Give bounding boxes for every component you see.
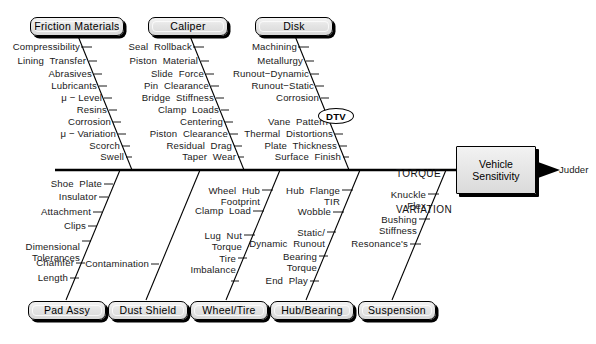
cause-pad-shoe-plate: Shoe Plate xyxy=(51,179,102,189)
cause-wheel-clamp-load: Clamp Load xyxy=(195,206,251,216)
cause-hub-flange-tir: Hub Flange TIR xyxy=(286,185,340,207)
category-label-suspension: Suspension xyxy=(368,305,426,316)
cause-disk-dtv-highlight: DTV xyxy=(318,108,354,124)
cause-friction-corrosion: Corrosion xyxy=(68,117,111,127)
cause-pad-insulator: Insulator xyxy=(59,192,97,202)
spine-annotation-line1: TORQUE xyxy=(396,168,452,180)
fishbone-diagram: Friction Materials Caliper Disk Pad Assy… xyxy=(0,0,596,344)
cause-caliper-seal-rollback: Seal Rollback xyxy=(129,42,192,52)
cause-caliper-piston-material: Piston Material xyxy=(129,56,198,66)
cause-caliper-bridge-stiffness: Bridge Stiffness xyxy=(142,93,214,103)
cause-caliper-clamp-loads: Clamp Loads xyxy=(158,105,219,115)
cause-friction-resins: Resins xyxy=(77,105,107,115)
cause-friction-scorch: Scorch xyxy=(89,141,120,151)
cause-caliper-piston-clearance: Piston Clearance xyxy=(150,129,228,139)
cause-disk-runout-static: Runout−Static xyxy=(252,81,314,91)
cause-friction-swell: Swell xyxy=(100,152,124,162)
cause-disk-thermal-distortions: Thermal Distortions xyxy=(244,129,333,139)
cause-hub-static-dynamic-runout: Static/ Dynamic Runout xyxy=(249,227,325,249)
cause-wheel-lug-nut-torque: Lug Nut Torque xyxy=(205,230,242,252)
bone-pad-assy xyxy=(66,170,120,300)
category-label-wheel-tire: Wheel/Tire xyxy=(202,305,255,316)
category-box-caliper[interactable]: Caliper xyxy=(148,17,228,36)
category-box-hub-bearing[interactable]: Hub/Bearing xyxy=(270,301,354,320)
cause-wheel-hub-footprint: Wheel Hub Footprint xyxy=(208,185,260,207)
cause-friction-abrasives: Abrasives xyxy=(49,69,92,79)
cause-hub-end-play: End Play xyxy=(266,276,308,286)
category-box-pad-assy[interactable]: Pad Assy xyxy=(28,301,106,320)
cause-caliper-residual-drag: Residual Drag xyxy=(166,141,232,151)
cause-suspension-knuckle-flex: Knuckle Flex xyxy=(391,189,426,211)
cause-friction-lining-transfer: Lining Transfer xyxy=(17,56,86,66)
category-label-dust-shield: Dust Shield xyxy=(120,305,177,316)
bone-dust-shield xyxy=(146,170,200,300)
category-box-disk[interactable]: Disk xyxy=(255,17,333,36)
cause-suspension-bushing-stiffness: Bushing Stiffness xyxy=(379,214,417,236)
cause-pad-attachment: Attachment xyxy=(41,207,91,217)
cause-disk-corrosion: Corrosion xyxy=(276,93,319,103)
category-label-hub-bearing: Hub/Bearing xyxy=(281,305,343,316)
category-box-wheel-tire[interactable]: Wheel/Tire xyxy=(190,301,268,320)
category-box-suspension[interactable]: Suspension xyxy=(358,301,436,320)
category-box-friction-materials[interactable]: Friction Materials xyxy=(30,17,124,36)
cause-pad-clips: Clips xyxy=(64,221,86,231)
cause-friction-mu-variation: μ − Variation xyxy=(60,129,116,139)
cause-dust-shield-contamination: Contamination xyxy=(85,259,149,269)
cause-caliper-taper-wear: Taper Wear xyxy=(182,152,236,162)
cause-disk-metallurgy: Metallurgy xyxy=(257,56,303,66)
cause-hub-bearing-torque: Bearing Torque xyxy=(283,251,317,273)
cause-friction-lubricants: Lubricants xyxy=(51,81,97,91)
cause-wheel-tire-imbalance: Tire Imbalance xyxy=(190,253,236,275)
cause-caliper-centering: Centering xyxy=(180,117,223,127)
dtv-text: DTV xyxy=(326,111,346,122)
cause-hub-wobble: Wobble xyxy=(298,207,331,217)
category-label-disk: Disk xyxy=(283,21,305,32)
outcome-label-judder: Judder xyxy=(559,164,588,175)
outcome-arrow-head xyxy=(538,162,560,178)
cause-caliper-slide-force: Slide Force xyxy=(151,69,204,79)
cause-friction-mu-level: μ − Level xyxy=(61,93,102,103)
cause-disk-surface-finish: Surface Finish xyxy=(275,152,341,162)
cause-caliper-pin-clearance: Pin Clearance xyxy=(144,81,209,91)
cause-friction-compressibility: Compressibility xyxy=(13,42,80,52)
category-box-dust-shield[interactable]: Dust Shield xyxy=(108,301,188,320)
cause-pad-chamfer: Chamfer xyxy=(36,258,74,268)
cause-suspension-resonances: Resonance's xyxy=(351,239,408,249)
cause-disk-machining: Machining xyxy=(252,42,297,52)
effect-label-line1: Vehicle xyxy=(479,158,513,170)
category-label-caliper: Caliper xyxy=(170,21,205,32)
cause-pad-length: Length xyxy=(38,273,68,283)
category-label-friction-materials: Friction Materials xyxy=(34,21,119,32)
cause-disk-plate-thickness: Plate Thickness xyxy=(264,141,337,151)
cause-disk-runout-dynamic: Runout−Dynamic xyxy=(233,69,309,79)
effect-label-line2: Sensitivity xyxy=(472,170,519,182)
category-label-pad-assy: Pad Assy xyxy=(44,305,90,316)
effect-box-vehicle-sensitivity[interactable]: Vehicle Sensitivity xyxy=(456,146,536,194)
